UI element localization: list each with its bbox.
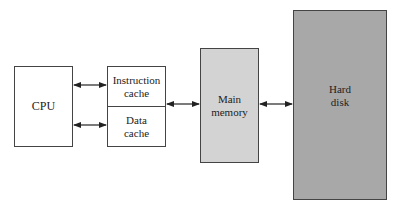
connector-arrows	[0, 0, 397, 215]
